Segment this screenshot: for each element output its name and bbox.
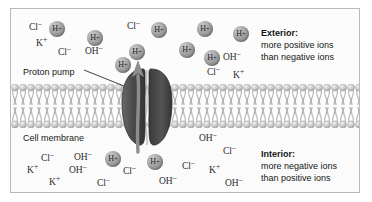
- exterior-note-line1: more positive ions: [261, 39, 334, 51]
- exterior-note: Exterior: more positive ions than negati…: [261, 27, 334, 63]
- ion-exterior-8: Cl–: [58, 48, 71, 58]
- outer-leaflet-graphic: [11, 84, 359, 106]
- leader-line-graphic: [83, 69, 125, 87]
- cell-membrane-label: Cell membrane: [23, 133, 84, 143]
- proton-pump-label: Proton pump: [23, 67, 75, 77]
- ion-exterior-7: K+: [36, 39, 47, 49]
- ion-interior-10: K+: [209, 166, 220, 176]
- proton-pump-diagram: Cl–H+H+Cl–H+H+H+K+Cl–OH–H+H+H+OH–H+Cl–K+…: [10, 8, 360, 193]
- ion-interior-5: Cl–: [223, 147, 236, 157]
- ion-exterior-5: H+: [197, 21, 213, 37]
- ion-interior-4: H+: [147, 154, 163, 170]
- ion-exterior-1: H+: [49, 21, 65, 37]
- ion-interior-14: OH–: [225, 179, 242, 189]
- ion-exterior-15: Cl–: [207, 68, 220, 78]
- ion-exterior-3: Cl–: [127, 22, 140, 32]
- ion-exterior-6: H+: [233, 26, 249, 42]
- ion-exterior-4: H+: [151, 22, 167, 38]
- interior-note-heading: Interior:: [261, 148, 337, 160]
- membrane-inner-leaflet: [11, 106, 359, 128]
- cell-membrane-bilayer: [11, 84, 359, 129]
- interior-note-line1: more negative ions: [261, 160, 337, 172]
- ion-exterior-10: H+: [129, 44, 145, 60]
- pump-lobe-right: [149, 69, 172, 145]
- inner-leaflet-graphic: [11, 106, 359, 128]
- exterior-note-heading: Exterior:: [261, 27, 334, 39]
- ion-interior-11: K+: [49, 178, 60, 188]
- proton-flow-arrow-graphic: [127, 56, 149, 154]
- ion-exterior-16: K+: [233, 71, 244, 81]
- ion-interior-6: K+: [27, 166, 38, 176]
- exterior-note-line2: than negative ions: [261, 51, 334, 63]
- ion-exterior-11: H+: [179, 42, 195, 58]
- ion-interior-13: OH–: [159, 177, 176, 187]
- ion-interior-3: H+: [105, 151, 121, 167]
- ion-interior-12: Cl–: [97, 179, 110, 189]
- ion-interior-1: Cl–: [41, 154, 54, 164]
- interior-note: Interior: more negative ions than positi…: [261, 148, 337, 184]
- interior-note-line2: than positive ions: [261, 172, 337, 184]
- proton-flow-arrow: [127, 56, 149, 154]
- ion-interior-9: Cl–: [182, 162, 195, 172]
- ion-interior-7: OH–: [69, 166, 86, 176]
- ion-exterior-13: OH–: [223, 53, 240, 63]
- ion-interior-0: OH–: [199, 134, 216, 144]
- ion-exterior-9: OH–: [85, 47, 102, 57]
- ion-exterior-0: Cl–: [29, 23, 42, 33]
- membrane-outer-leaflet: [11, 84, 359, 106]
- ion-interior-8: Cl–: [123, 167, 136, 177]
- proton-pump-leader-line: [83, 69, 125, 87]
